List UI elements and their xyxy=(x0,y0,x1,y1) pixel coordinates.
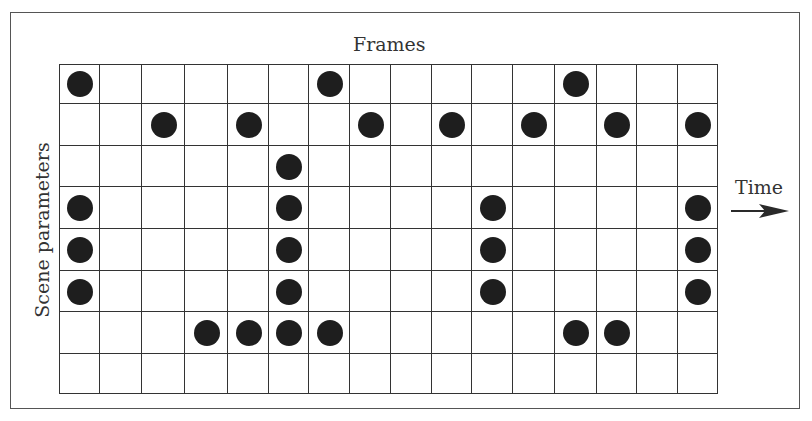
filled-dot-icon xyxy=(685,195,711,221)
grid-cell xyxy=(142,187,185,229)
filled-dot-icon xyxy=(480,279,506,305)
grid-cell xyxy=(350,146,391,187)
grid-cell xyxy=(228,229,269,271)
filled-dot-icon xyxy=(67,71,93,97)
grid-cell xyxy=(142,64,185,104)
grid-cell xyxy=(472,354,513,394)
right-arrow-icon xyxy=(731,204,789,218)
grid-cell xyxy=(185,354,228,394)
scene-parameters-label: Scene parameters xyxy=(31,142,53,317)
filled-dot-icon xyxy=(236,112,262,138)
grid-cell xyxy=(350,354,391,394)
filled-dot-icon xyxy=(317,320,343,346)
grid-cell xyxy=(597,146,637,187)
grid-cell xyxy=(100,146,142,187)
grid-cell xyxy=(597,271,637,312)
filled-dot-icon xyxy=(685,279,711,305)
filled-dot-icon xyxy=(276,237,302,263)
filled-dot-icon xyxy=(685,112,711,138)
grid-cell xyxy=(472,104,513,146)
grid-cell xyxy=(555,104,597,146)
grid-cell xyxy=(100,64,142,104)
grid-cell xyxy=(309,187,350,229)
grid-cell xyxy=(637,104,678,146)
grid-cell xyxy=(472,146,513,187)
grid-cell xyxy=(142,146,185,187)
filled-dot-icon xyxy=(480,195,506,221)
filled-dot-icon xyxy=(563,320,589,346)
grid-cell xyxy=(59,146,100,187)
filled-dot-icon xyxy=(358,112,384,138)
grid-cell xyxy=(432,64,472,104)
grid-cell xyxy=(555,146,597,187)
grid-cell xyxy=(309,229,350,271)
grid-cell xyxy=(185,271,228,312)
grid-cell xyxy=(432,354,472,394)
grid-cell xyxy=(350,229,391,271)
grid-cell xyxy=(513,354,555,394)
grid-cell xyxy=(185,229,228,271)
grid-cell xyxy=(432,229,472,271)
grid-cell xyxy=(185,146,228,187)
grid-cell xyxy=(391,229,432,271)
frame-parameter-grid xyxy=(59,64,718,394)
grid-cell xyxy=(637,64,678,104)
filled-dot-icon xyxy=(67,237,93,263)
grid-cell xyxy=(228,354,269,394)
grid-cell xyxy=(350,271,391,312)
grid-cell xyxy=(678,146,718,187)
grid-cell xyxy=(391,146,432,187)
grid-cell xyxy=(100,187,142,229)
grid-cell xyxy=(309,354,350,394)
filled-dot-icon xyxy=(236,320,262,346)
filled-dot-icon xyxy=(563,71,589,97)
grid-cell xyxy=(100,104,142,146)
grid-cell xyxy=(391,271,432,312)
filled-dot-icon xyxy=(685,237,711,263)
filled-dot-icon xyxy=(439,112,465,138)
filled-dot-icon xyxy=(151,112,177,138)
grid-cell xyxy=(350,312,391,354)
filled-dot-icon xyxy=(276,279,302,305)
grid-cell xyxy=(309,146,350,187)
grid-cell xyxy=(678,312,718,354)
grid-cell xyxy=(472,64,513,104)
filled-dot-icon xyxy=(604,320,630,346)
grid-cell xyxy=(432,271,472,312)
grid-cell xyxy=(513,187,555,229)
grid-cell xyxy=(555,187,597,229)
grid-cell xyxy=(555,229,597,271)
grid-cell xyxy=(59,312,100,354)
grid-cell xyxy=(391,104,432,146)
filled-dot-icon xyxy=(317,71,343,97)
grid-cell xyxy=(637,354,678,394)
time-label: Time xyxy=(735,176,783,198)
grid-cell xyxy=(597,64,637,104)
grid-cell xyxy=(391,187,432,229)
filled-dot-icon xyxy=(276,154,302,180)
grid-cell xyxy=(513,312,555,354)
grid-cell xyxy=(142,271,185,312)
grid-cell xyxy=(637,271,678,312)
grid-cell xyxy=(228,271,269,312)
grid-cell xyxy=(142,354,185,394)
filled-dot-icon xyxy=(480,237,506,263)
grid-cell xyxy=(432,187,472,229)
filled-dot-icon xyxy=(194,320,220,346)
grid-cell xyxy=(100,271,142,312)
grid-cell xyxy=(391,312,432,354)
grid-cell xyxy=(142,312,185,354)
grid-cell xyxy=(269,104,309,146)
grid-cell xyxy=(637,229,678,271)
filled-dot-icon xyxy=(521,112,547,138)
grid-cell xyxy=(185,104,228,146)
grid-cell xyxy=(228,146,269,187)
grid-cell xyxy=(597,187,637,229)
grid-cell xyxy=(228,64,269,104)
grid-cell xyxy=(597,229,637,271)
frames-title: Frames xyxy=(353,33,426,55)
grid-cell xyxy=(59,104,100,146)
grid-cell xyxy=(269,64,309,104)
grid-cell xyxy=(100,312,142,354)
grid-cell xyxy=(637,312,678,354)
